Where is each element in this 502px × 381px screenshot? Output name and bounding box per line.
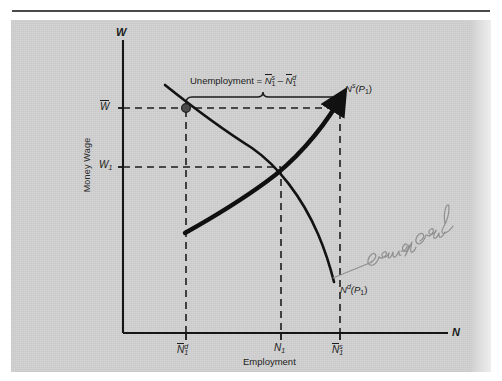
demand-curve-label-base: N	[340, 284, 347, 295]
unemployment-point-marker	[182, 104, 191, 113]
demand-curve-label: Nd(P1)	[340, 283, 367, 296]
unemployment-equation-demand-sup: d	[292, 74, 296, 81]
y-tick-label-w-one-sub: 1	[108, 164, 112, 171]
y-axis-label: Money Wage	[82, 120, 92, 210]
labor-supply-curve	[185, 104, 337, 233]
x-tick-label-n-bar-demand: N1d	[177, 343, 188, 356]
supply-curve-label-arg-close: )	[369, 83, 372, 94]
x-axis-label: Employment	[243, 357, 296, 367]
demand-curve-label-arg: (P	[351, 284, 361, 295]
x-tick-label-n-bar-demand-sub: 1	[184, 349, 188, 356]
x-tick-label-n-bar-supply: N1s	[332, 343, 343, 356]
y-axis-name: W	[116, 27, 126, 38]
x-axis-name: N	[452, 327, 460, 338]
x-tick-label-n-bar-supply-sup: s	[339, 343, 343, 350]
supply-curve-label: Ns(P1)	[345, 82, 372, 95]
y-tick-label-w-one: W1	[99, 160, 112, 171]
demand-curve-label-arg-close: )	[364, 284, 367, 295]
y-tick-label-w-bar-text: W	[100, 100, 109, 112]
labor-market-chart	[0, 0, 502, 381]
x-tick-label-n-one-sub: 1	[281, 347, 285, 354]
handwritten-annotation	[333, 205, 453, 278]
scanned-figure-page: W N Money Wage Employment W W1 N1d N1 N1…	[0, 0, 502, 381]
unemployment-equation-prefix: Unemployment =	[190, 75, 265, 86]
y-tick-label-w-bar: W	[100, 100, 109, 112]
x-tick-label-n-bar-demand-sup: d	[184, 343, 188, 350]
x-tick-label-n-one: N1	[274, 343, 285, 354]
unemployment-brace	[186, 92, 340, 103]
unemployment-equation-minus: –	[275, 75, 286, 86]
unemployment-equation-demand-sub: 1	[292, 80, 296, 87]
unemployment-equation-supply-base: N	[265, 74, 272, 86]
supply-curve-label-base: N	[345, 83, 352, 94]
labor-demand-curve	[165, 85, 334, 282]
x-tick-label-n-bar-supply-sub: 1	[339, 349, 343, 356]
supply-curve-label-arg: (P	[355, 83, 365, 94]
unemployment-equation: Unemployment = N1s – N1d	[190, 74, 296, 87]
